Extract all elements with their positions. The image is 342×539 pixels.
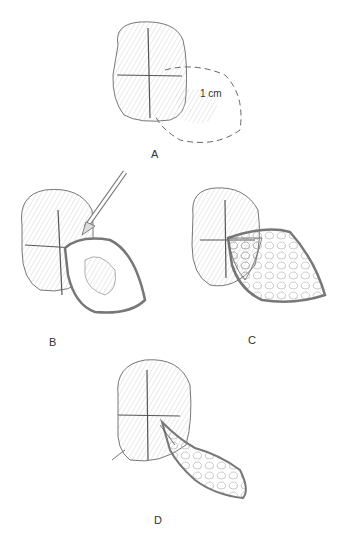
panel-b-drawing bbox=[21, 172, 145, 313]
panel-a-drawing bbox=[113, 22, 241, 143]
panel-label-d: D bbox=[154, 514, 162, 526]
surgical-diagram bbox=[0, 0, 342, 539]
panel-label-c: C bbox=[248, 334, 256, 346]
panel-d-drawing bbox=[112, 360, 246, 498]
panel-label-a: A bbox=[151, 148, 158, 160]
measurement-annotation: 1 cm bbox=[200, 88, 222, 99]
panel-c-drawing bbox=[192, 188, 325, 302]
panel-label-b: B bbox=[49, 336, 56, 348]
